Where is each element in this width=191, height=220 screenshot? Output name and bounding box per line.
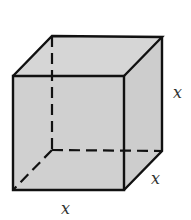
cube-diagram: x x x: [0, 0, 191, 220]
cube-front-face: [13, 76, 124, 190]
label-height: x: [173, 83, 182, 102]
label-depth: x: [151, 169, 160, 188]
label-width: x: [61, 199, 70, 218]
